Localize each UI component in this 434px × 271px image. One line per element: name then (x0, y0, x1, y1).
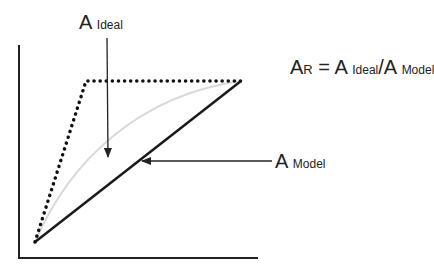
label-a-ideal: A Ideal (79, 12, 123, 32)
ideal-arrow (107, 38, 108, 157)
formula-lhs-sub: R (303, 62, 312, 77)
formula-lhs-main: A (290, 56, 303, 78)
label-a-model-main: A (275, 150, 288, 172)
formula-denominator-main: A (384, 56, 397, 78)
label-a-ideal-main: A (79, 11, 92, 33)
formula-ar: AR = A Ideal/A Model (290, 57, 434, 77)
label-a-model: A Model (275, 151, 325, 171)
formula-denominator-sub: Model (402, 63, 434, 77)
label-a-model-sub: Model (293, 157, 326, 171)
formula-numerator-sub: Ideal (352, 63, 378, 77)
formula-numerator-main: A (334, 56, 347, 78)
formula-equals: = (313, 56, 335, 78)
label-a-ideal-sub: Ideal (97, 18, 123, 32)
